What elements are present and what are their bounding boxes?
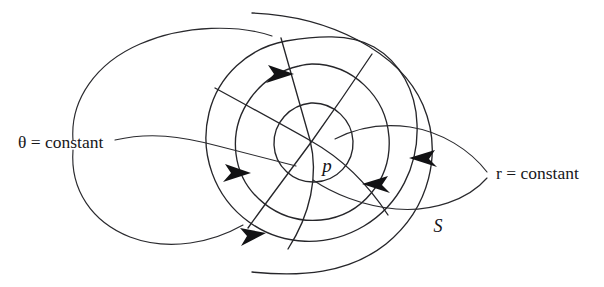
polar-coordinate-diagram: θ = constant r = constant p S [0,0,604,287]
leader-theta-lower [73,150,243,244]
boundary-arc-s [252,13,432,274]
arrowhead-outer-right [409,150,437,167]
label-theta-constant: θ = constant [18,132,103,152]
label-r-constant: r = constant [496,163,579,183]
leader-theta-upper [73,28,272,140]
label-region-s: S [434,216,443,236]
leader-r-lower [313,178,487,209]
arrowhead-inner-right [362,176,390,193]
label-center-point-p: p [320,155,332,176]
arrowhead-mid-left [223,164,251,182]
leader-r-upper [335,126,487,172]
figure-root: θ = constant r = constant p S [0,0,604,287]
